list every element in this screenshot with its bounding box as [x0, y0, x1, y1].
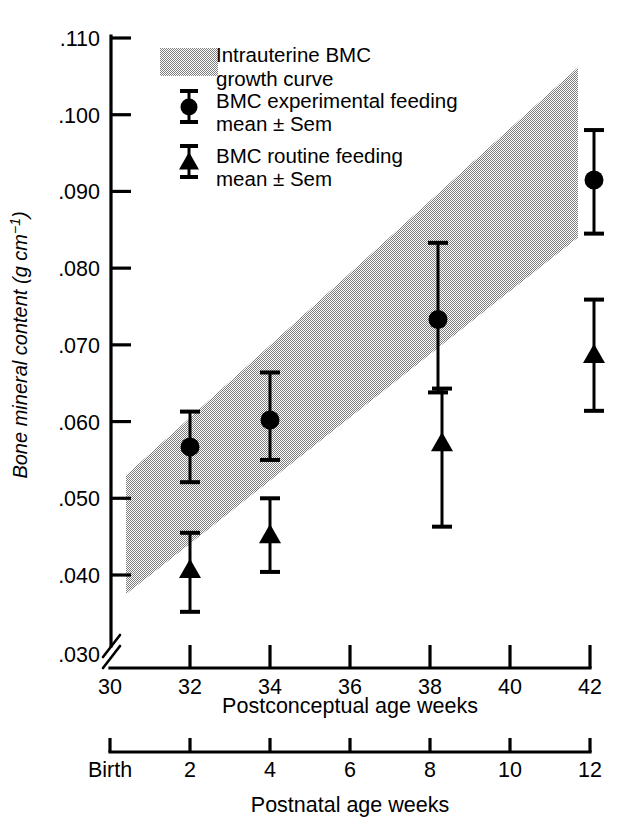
- secondary-x-tick-label-10: 10: [498, 758, 522, 782]
- legend-item-2: BMC experimental feedingmean ± Sem: [180, 89, 458, 135]
- legend-band-swatch: [160, 48, 218, 76]
- x-axis-ticks: [190, 645, 590, 668]
- y-tick-label-060: .060: [58, 411, 100, 435]
- marker-triangle: [431, 432, 453, 451]
- x-tick-label-30: 30: [98, 675, 122, 699]
- y-tick-label-090: .090: [58, 180, 100, 204]
- y-tick-label-group: .110.100.090.080.070.060.050.040.030: [58, 27, 100, 667]
- data-point: [584, 130, 604, 234]
- marker-circle: [429, 310, 448, 329]
- secondary-x-tick-label-8: 8: [424, 758, 436, 782]
- y-tick-label-110: .110: [60, 27, 100, 51]
- marker-circle: [585, 170, 604, 189]
- x-tick-label-32: 32: [178, 675, 202, 699]
- y-axis-title-paren: ): [9, 211, 31, 220]
- legend-item-3: BMC routine feedingmean ± Sem: [179, 144, 403, 190]
- y-axis-title-main: Bone mineral content (g cm: [9, 234, 31, 479]
- legend-item-1: Intrauterine BMCgrowth curve: [160, 43, 371, 90]
- x-axis: [110, 645, 590, 668]
- y-tick-label-100: .100: [58, 104, 100, 128]
- legend-marker-circle: [181, 99, 198, 116]
- marker-triangle: [259, 524, 281, 543]
- secondary-x-tick-label-6: 6: [344, 758, 356, 782]
- secondary-x-axis-title: Postnatal age weeks: [251, 793, 449, 817]
- secondary-x-tick-label-12: 12: [578, 758, 602, 782]
- y-tick-label-070: .070: [58, 334, 100, 358]
- y-axis-title-exponent: −1: [7, 218, 23, 234]
- x-tick-label-40: 40: [498, 675, 522, 699]
- y-tick-label-030: .030: [58, 643, 100, 667]
- y-axis-title-group: Bone mineral content (g cm−1): [7, 211, 31, 478]
- y-axis-title: Bone mineral content (g cm−1): [7, 211, 31, 478]
- x-axis-title: Postconceptual age weeks: [222, 694, 478, 718]
- secondary-x-tick-label-group: Birth24681012: [88, 758, 602, 782]
- legend-label-line1: Intrauterine BMC: [216, 43, 371, 66]
- legend-marker-triangle: [179, 152, 199, 170]
- legend-label-line1: BMC experimental feeding: [216, 89, 458, 112]
- secondary-x-tick-label-birth: Birth: [88, 758, 132, 782]
- legend-label-line1: BMC routine feeding: [216, 144, 403, 167]
- legend-label-line2: mean ± Sem: [216, 112, 332, 135]
- secondary-x-tick-label-2: 2: [184, 758, 196, 782]
- marker-circle: [261, 411, 280, 430]
- legend-label-line2: growth curve: [216, 67, 333, 90]
- bone-mineral-content-figure: .110.100.090.080.070.060.050.040.030 303…: [0, 0, 622, 824]
- y-tick-label-040: .040: [58, 564, 100, 588]
- marker-triangle: [179, 559, 201, 578]
- y-tick-label-080: .080: [58, 257, 100, 281]
- secondary-x-axis: [110, 738, 590, 752]
- marker-circle: [181, 437, 200, 456]
- x-tick-label-42: 42: [578, 675, 602, 699]
- legend-label-line2: mean ± Sem: [216, 167, 332, 190]
- marker-triangle: [583, 344, 605, 363]
- y-tick-label-050: .050: [58, 487, 100, 511]
- data-point: [431, 389, 453, 527]
- chart-canvas: .110.100.090.080.070.060.050.040.030 303…: [0, 0, 622, 824]
- data-point: [583, 300, 605, 411]
- chart-legend: Intrauterine BMCgrowth curveBMC experime…: [160, 43, 458, 190]
- data-point: [259, 498, 281, 572]
- secondary-x-axis-ticks: [110, 738, 590, 752]
- secondary-x-tick-label-4: 4: [264, 758, 276, 782]
